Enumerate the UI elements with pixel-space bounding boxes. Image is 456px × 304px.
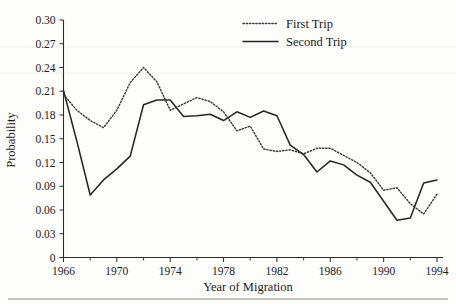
legend-label-first-trip: First Trip xyxy=(286,17,333,31)
y-tick-label: 0.18 xyxy=(35,109,55,121)
x-tick-label: 1994 xyxy=(426,265,449,277)
x-tick-label: 1982 xyxy=(265,265,288,277)
y-axis-title: Probability xyxy=(4,111,18,167)
y-tick-label: 0.15 xyxy=(35,133,55,145)
chart-background xyxy=(0,0,456,304)
x-tick-label: 1970 xyxy=(105,265,128,277)
x-tick-label: 1990 xyxy=(372,265,395,277)
x-tick-label: 1966 xyxy=(52,265,75,277)
y-tick-label: 0.06 xyxy=(35,204,55,216)
x-axis-title: Year of Migration xyxy=(203,280,293,294)
y-tick-label: 0.24 xyxy=(35,62,55,74)
x-tick-label: 1978 xyxy=(212,265,235,277)
x-tick-label: 1974 xyxy=(159,265,182,277)
x-tick-label: 1986 xyxy=(319,265,342,277)
y-tick-label: 0.03 xyxy=(35,228,55,240)
y-tick-label: 0.27 xyxy=(35,38,55,50)
line-chart: 00.030.060.090.120.150.180.210.240.270.3… xyxy=(0,0,456,304)
y-tick-label: 0.09 xyxy=(35,180,55,192)
figure-container: 00.030.060.090.120.150.180.210.240.270.3… xyxy=(0,0,456,304)
y-tick-label: 0.30 xyxy=(35,14,55,26)
y-tick-label: 0.12 xyxy=(35,157,55,169)
legend-label-second-trip: Second Trip xyxy=(286,35,347,49)
y-tick-label: 0.21 xyxy=(35,85,55,97)
y-tick-label: 0 xyxy=(50,252,56,264)
